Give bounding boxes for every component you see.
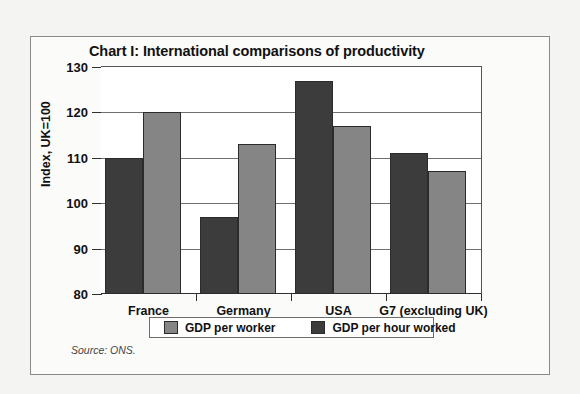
legend-item-gdp-per-worker[interactable]: GDP per worker — [164, 321, 275, 335]
source-note: Source: ONS. — [71, 344, 136, 356]
y-tick-label-110: 110 — [67, 150, 88, 165]
y-axis-title: Index, UK=100 — [39, 101, 53, 187]
y-tick-130 — [92, 67, 101, 68]
bar-usa-gdp-per-hour-worked[interactable] — [295, 81, 333, 294]
chart-legend: GDP per worker GDP per hour worked — [149, 317, 434, 338]
chart-title: Chart I: International comparisons of pr… — [89, 43, 425, 59]
legend-label-gdp-per-hour-worked: GDP per hour worked — [332, 321, 455, 335]
x-tick — [196, 294, 197, 301]
legend-label-gdp-per-worker: GDP per worker — [185, 321, 275, 335]
bar-group: G7 (excluding UK) — [386, 67, 481, 294]
bar-france-gdp-per-hour-worked[interactable] — [105, 158, 143, 294]
legend-swatch-icon-gdp-per-hour-worked — [311, 321, 325, 334]
x-tick — [386, 294, 387, 301]
y-tick-label-130: 130 — [66, 60, 88, 75]
x-tick — [481, 294, 482, 301]
bar-g7-excluding-uk-gdp-per-hour-worked[interactable] — [390, 153, 428, 294]
bar-g7-excluding-uk-gdp-per-worker[interactable] — [428, 171, 466, 294]
bar-group: Germany — [196, 67, 291, 294]
legend-item-gdp-per-hour-worked[interactable]: GDP per hour worked — [311, 321, 455, 335]
bar-germany-gdp-per-worker[interactable] — [238, 144, 276, 294]
x-axis-label-usa: USA — [325, 304, 351, 318]
y-tick-120 — [92, 112, 101, 113]
y-tick-label-80: 80 — [74, 287, 88, 302]
chart-figure: Chart I: International comparisons of pr… — [30, 36, 550, 375]
y-tick-100 — [92, 203, 101, 204]
y-tick-label-90: 90 — [74, 241, 88, 256]
bar-usa-gdp-per-worker[interactable] — [333, 126, 371, 294]
y-tick-label-120: 120 — [66, 105, 88, 120]
y-tick-90 — [92, 249, 101, 250]
bar-france-gdp-per-worker[interactable] — [143, 112, 181, 294]
y-tick-110 — [92, 158, 101, 159]
bar-group: USA — [291, 67, 386, 294]
x-axis-label-france: France — [128, 304, 169, 318]
x-tick — [291, 294, 292, 301]
x-axis-label-g7-excluding-uk: G7 (excluding UK) — [379, 304, 487, 318]
legend-swatch-icon-gdp-per-worker — [164, 321, 178, 334]
y-tick-label-100: 100 — [66, 196, 88, 211]
bar-group: France — [101, 67, 196, 294]
bar-germany-gdp-per-hour-worked[interactable] — [200, 217, 238, 294]
plot-area: 8090100110120130FranceGermanyUSAG7 (excl… — [101, 66, 482, 294]
x-axis-label-germany: Germany — [216, 304, 270, 318]
y-tick-80 — [92, 294, 101, 295]
